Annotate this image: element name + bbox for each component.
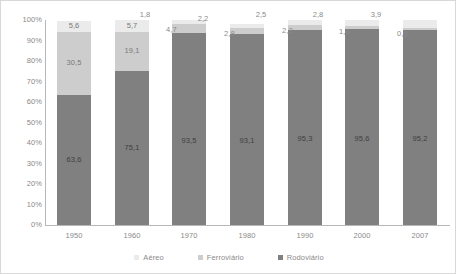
y-axis-tick-label: 60% — [2, 98, 42, 106]
bar-segment-rodoviario[interactable] — [230, 34, 264, 225]
bar-segment-rodoviario[interactable] — [172, 33, 206, 225]
y-axis-tick-label: 30% — [2, 160, 42, 168]
bar-value-label-ferroviario: 4,7 — [166, 25, 188, 34]
legend-item[interactable]: Ferroviário — [198, 253, 244, 262]
bar-segment-aereo[interactable] — [403, 20, 437, 28]
bar-stack: 95,2 — [403, 20, 437, 225]
bar-segment-aereo[interactable] — [345, 20, 379, 26]
y-axis-tick-label: 0% — [2, 221, 42, 229]
y-axis-tick-label: 40% — [2, 139, 42, 147]
bar-stack: 75,119,15,7 — [115, 20, 149, 225]
x-axis-tick-label: 2007 — [398, 231, 442, 240]
y-axis-tick-label: 80% — [2, 57, 42, 65]
bar-group[interactable]: 75,119,15,7 — [115, 20, 149, 225]
x-axis-tick-label: 2000 — [340, 231, 384, 240]
bar-value-label-rodoviario: 75,1 — [115, 143, 149, 152]
bar-value-label-ferroviario: 1,6 — [339, 27, 361, 36]
bar-value-label-aereo: 3,9 — [359, 10, 393, 19]
bar-value-label-aereo: 2,2 — [186, 14, 220, 23]
bar-value-label-rodoviario: 93,1 — [230, 136, 264, 145]
x-axis-tick-label: 1960 — [110, 231, 154, 240]
bar-value-label-aereo: 2,5 — [244, 10, 278, 19]
y-axis-tick-labels: 100%90%80%70%60%50%40%30%20%10%0% — [1, 20, 42, 225]
bar-value-label-rodoviario: 95,2 — [403, 134, 437, 143]
bar-group[interactable]: 93,1 — [230, 20, 264, 225]
legend-swatch-icon — [278, 255, 283, 260]
legend-swatch-icon — [198, 255, 203, 260]
bar-segment-aereo[interactable] — [288, 20, 322, 25]
legend-item[interactable]: Rodoviário — [278, 253, 324, 262]
y-axis-tick-label: 90% — [2, 37, 42, 45]
x-axis-tick-label: 1990 — [283, 231, 327, 240]
stacked-bar-chart: 100%90%80%70%60%50%40%30%20%10%0% 63,630… — [0, 0, 456, 274]
chart-legend: AéreoFerroviárioRodoviário — [1, 253, 456, 262]
y-axis-tick-label: 100% — [2, 16, 42, 24]
bar-segment-aereo[interactable] — [230, 24, 264, 29]
legend-label: Rodoviário — [287, 253, 324, 262]
legend-swatch-icon — [134, 255, 139, 260]
bar-value-label-aereo: 5,7 — [115, 21, 149, 30]
bar-value-label-ferroviario: 19,1 — [115, 46, 149, 55]
plot-area: 63,630,55,675,119,15,793,593,195,395,695… — [45, 20, 449, 225]
y-axis-tick-label: 20% — [2, 180, 42, 188]
bar-group[interactable]: 93,5 — [172, 20, 206, 225]
bar-value-label-rodoviario: 93,5 — [172, 136, 206, 145]
bar-value-label-ferroviario: 2,2 — [282, 26, 304, 35]
x-axis-line — [45, 225, 450, 226]
bar-segment-rodoviario[interactable] — [288, 30, 322, 225]
legend-item[interactable]: Aéreo — [134, 253, 164, 262]
x-axis-tick-label: 1970 — [167, 231, 211, 240]
bar-stack: 93,1 — [230, 20, 264, 225]
legend-label: Aéreo — [143, 253, 164, 262]
bar-group[interactable]: 95,6 — [345, 20, 379, 225]
legend-label: Ferroviário — [207, 253, 244, 262]
x-axis-tick-label: 1950 — [52, 231, 96, 240]
bar-value-label-rodoviario: 63,6 — [57, 155, 91, 164]
bar-value-label-ferroviario: 30,5 — [57, 58, 91, 67]
bar-stack: 95,3 — [288, 20, 322, 225]
bar-value-label-aereo: 5,6 — [57, 21, 91, 30]
bar-value-label-aereo: 1,8 — [128, 10, 162, 19]
bar-segment-rodoviario[interactable] — [403, 30, 437, 225]
bar-value-label-aereo: 2,8 — [301, 10, 335, 19]
bar-value-label-ferroviario: 2,8 — [224, 29, 246, 38]
bar-group[interactable]: 95,3 — [288, 20, 322, 225]
x-axis-tick-label: 1980 — [225, 231, 269, 240]
bar-segment-rodoviario[interactable] — [345, 29, 379, 225]
bar-stack: 93,5 — [172, 20, 206, 225]
y-axis-tick-label: 70% — [2, 78, 42, 86]
bar-group[interactable]: 95,2 — [403, 20, 437, 225]
bar-stack: 63,630,55,6 — [57, 20, 91, 225]
bar-value-label-rodoviario: 95,3 — [288, 134, 322, 143]
bar-value-label-rodoviario: 95,6 — [345, 134, 379, 143]
bar-stack: 95,6 — [345, 20, 379, 225]
bar-value-label-ferroviario: 0,9 — [397, 29, 419, 38]
y-axis-tick-label: 10% — [2, 201, 42, 209]
bar-group[interactable]: 63,630,55,6 — [57, 20, 91, 225]
y-axis-tick-label: 50% — [2, 119, 42, 127]
